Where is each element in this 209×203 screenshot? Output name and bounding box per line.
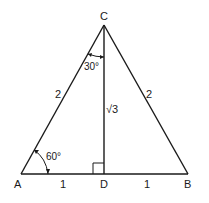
triangle-diagram: C A D B 2 2 √3 1 1 60° 30° xyxy=(0,0,209,203)
vertex-label-A: A xyxy=(14,178,22,190)
side-label-DB: 1 xyxy=(144,178,150,190)
edge-AC xyxy=(21,25,104,174)
angle-label-C: 30° xyxy=(84,61,99,72)
angle-label-A: 60° xyxy=(46,151,61,162)
vertex-label-C: C xyxy=(100,10,108,22)
side-label-CD: √3 xyxy=(106,103,118,115)
vertex-label-B: B xyxy=(184,178,191,190)
side-label-BC: 2 xyxy=(146,88,152,100)
right-angle-marker xyxy=(93,163,104,174)
side-label-AC: 2 xyxy=(55,88,61,100)
vertex-label-D: D xyxy=(100,178,108,190)
arrowhead-icon xyxy=(46,169,50,174)
side-label-AD: 1 xyxy=(60,178,66,190)
